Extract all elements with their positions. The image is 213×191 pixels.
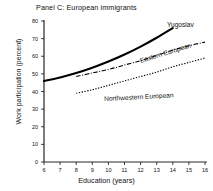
- x-tick-label: 10: [102, 167, 114, 173]
- y-tick-label: 20: [24, 124, 38, 130]
- x-tick-label: 9: [86, 167, 98, 173]
- x-tick-label: 7: [54, 167, 66, 173]
- y-tick-label: 70: [24, 36, 38, 42]
- y-tick-label: 30: [24, 106, 38, 112]
- x-tick-label: 13: [151, 167, 163, 173]
- series-label-yugoslav: Yugoslav: [167, 21, 194, 28]
- axis-spines: [44, 20, 207, 162]
- y-tick-label: 80: [24, 18, 38, 24]
- y-tick-label: 60: [24, 53, 38, 59]
- x-tick-label: 12: [135, 167, 147, 173]
- x-tick-label: 8: [70, 167, 82, 173]
- x-tick-label: 6: [38, 167, 50, 173]
- x-tick-label: 15: [183, 167, 195, 173]
- x-tick-label: 14: [167, 167, 179, 173]
- y-tick-label: 40: [24, 89, 38, 95]
- x-tick-label: 11: [119, 167, 131, 173]
- x-tick-label: 16: [199, 167, 211, 173]
- y-tick-label: 0: [24, 159, 38, 165]
- y-tick-label: 50: [24, 71, 38, 77]
- chart-figure: Panel C: European immigrants Work partic…: [0, 0, 213, 191]
- y-tick-label: 10: [24, 141, 38, 147]
